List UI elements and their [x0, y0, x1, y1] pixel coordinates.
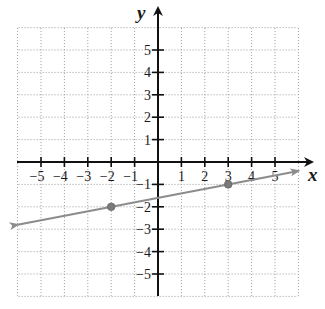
x-tick-label: −2	[100, 169, 115, 184]
plotted-point	[107, 203, 115, 211]
y-tick-label: 1	[144, 133, 151, 148]
y-tick-label: −4	[136, 245, 151, 260]
x-tick-label: −4	[53, 169, 68, 184]
y-tick-label: 4	[144, 65, 151, 80]
plotted-point	[224, 181, 232, 189]
x-tick-label: −5	[30, 169, 45, 184]
x-tick-label: −3	[76, 169, 91, 184]
axes	[17, 8, 312, 296]
y-axis-label: y	[135, 2, 146, 23]
x-axis-label: x	[307, 164, 318, 185]
x-tick-label: 4	[248, 169, 255, 184]
y-tick-label: 5	[144, 43, 151, 58]
coordinate-plane: −5−4−3−2−11234554321−1−2−3−4−5 x y	[0, 0, 325, 309]
y-tick-label: −5	[136, 267, 151, 282]
y-tick-label: −3	[136, 222, 151, 237]
y-tick-label: −1	[136, 177, 151, 192]
x-tick-label: 2	[201, 169, 208, 184]
y-tick-label: 2	[144, 110, 151, 125]
x-tick-label: 1	[178, 169, 185, 184]
y-tick-label: 3	[144, 88, 151, 103]
